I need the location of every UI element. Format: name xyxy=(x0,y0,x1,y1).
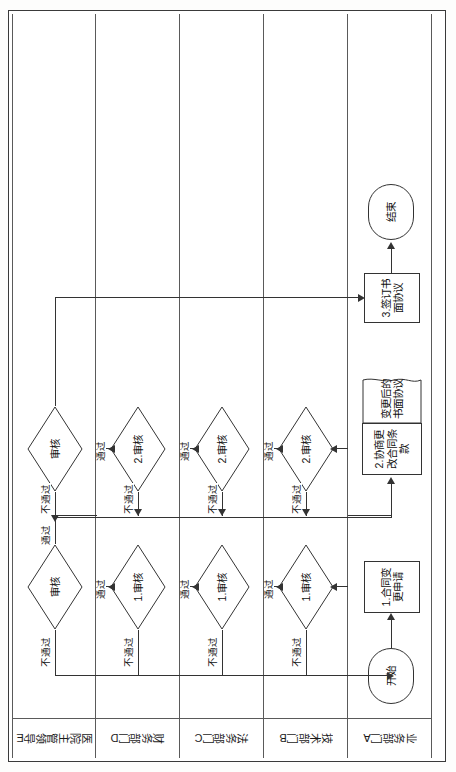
feed-bus-p2-c xyxy=(180,517,264,518)
edge-p3-to-end xyxy=(391,247,392,273)
node-process-3-sign-agreement[interactable]: 3.签订书面协议 xyxy=(364,273,420,323)
swimlane-leadership-e: 医院主管领导E 审核 审核 xyxy=(12,14,96,758)
node-document-written-agreement[interactable]: 变更后的书面协议 xyxy=(362,374,422,424)
node-label-end: 结束 xyxy=(385,200,397,224)
edge-e1-fail xyxy=(55,630,56,676)
decision-technical-review-2[interactable]: 2.审核 xyxy=(278,406,334,492)
arrow-feed-to-p2 xyxy=(387,477,395,484)
decision-label: 审核 xyxy=(49,575,61,599)
arrow-p1-to-b1 xyxy=(330,583,337,591)
edge-label-e2-fail: 不通过 xyxy=(41,483,51,515)
swimlane-technical-b: 技术部门B 1.审核 2.审核 xyxy=(264,14,348,758)
arrow-c1-pass xyxy=(192,583,199,591)
lane-body-d: 1.审核 2.审核 通过 不通过 xyxy=(96,14,179,718)
decision-technical-review-1[interactable]: 1.审核 xyxy=(278,544,334,630)
edge-label-d2-fail: 不通过 xyxy=(124,483,134,515)
edge-label-d1-fail: 不通过 xyxy=(124,636,134,668)
arrow-c2-fail xyxy=(218,509,226,516)
decision-finance-review-1[interactable]: 1.审核 xyxy=(110,544,166,630)
arrow-p3-to-end xyxy=(387,242,395,249)
arrow-p2-to-b2 xyxy=(330,445,337,453)
edge-label-e1-fail: 不通过 xyxy=(41,636,51,668)
reject-bus-round1-e xyxy=(55,675,97,676)
lane-body-c: 1.审核 2.审核 通过 不通过 通过 xyxy=(180,14,263,718)
decision-label: 2.审核 xyxy=(132,433,144,466)
node-label-doc1: 变更后的书面协议 xyxy=(380,374,405,424)
edge-e2-pass-down xyxy=(55,297,97,298)
edge-b1-fail xyxy=(306,630,307,676)
decision-label: 1.审核 xyxy=(132,571,144,604)
node-label-p1: 1.合同变更申请 xyxy=(380,562,405,612)
edge-c1-fail xyxy=(222,630,223,676)
decision-leadership-review-1[interactable]: 审核 xyxy=(27,544,83,630)
swimlane-finance-d: 财务部门D 1.审核 2.审核 xyxy=(96,14,180,758)
node-label-p3: 3.签订书面协议 xyxy=(380,274,405,322)
pass-bus-p3-b xyxy=(264,297,348,298)
edge-label-c2-pass: 通过 xyxy=(180,440,190,462)
decision-leadership-review-2[interactable]: 审核 xyxy=(27,406,83,492)
lane-body-a: 开始 1.合同变更申请 xyxy=(348,14,431,718)
decision-label: 审核 xyxy=(49,437,61,461)
node-process-2-negotiate-terms[interactable]: 2.协商更改合同条款 xyxy=(362,423,422,475)
arrow-d2-fail xyxy=(134,509,142,516)
lane-label-a: 业务部门A xyxy=(363,731,417,747)
lane-header-b: 技术部门B xyxy=(264,718,347,758)
pass-bus-p3-d xyxy=(96,297,180,298)
edge-label-d2-pass: 通过 xyxy=(96,440,106,462)
edge-label-b1-pass: 通过 xyxy=(264,578,274,600)
node-label-p2: 2.协商更改合同条款 xyxy=(373,424,410,474)
decision-label: 2.审核 xyxy=(300,433,312,466)
pass-bus-p3-c xyxy=(180,297,264,298)
lane-body-e: 审核 审核 不通过 通过 xyxy=(13,14,95,718)
lane-header-e: 医院主管领导E xyxy=(13,718,95,758)
swimlane-business-a: 业务部门A 开始 1.合同变更申请 xyxy=(348,14,432,758)
swimlane-canvas: 医院主管领导E 审核 审核 xyxy=(12,14,432,758)
lane-label-c: 法务部门C xyxy=(194,731,248,747)
decision-label: 2.审核 xyxy=(216,433,228,466)
flowchart-viewport: 医院主管领导E 审核 审核 xyxy=(12,14,432,758)
arrow-b1-pass xyxy=(276,583,283,591)
edge-label-c1-fail: 不通过 xyxy=(208,636,218,668)
lane-label-e: 医院主管领导E xyxy=(16,731,93,747)
edge-label-b1-fail: 不通过 xyxy=(292,636,302,668)
arrow-d1-pass xyxy=(108,583,115,591)
decision-label: 1.审核 xyxy=(216,571,228,604)
edge-feed-to-p2 xyxy=(391,482,392,518)
arrow-start-to-p1 xyxy=(387,613,395,620)
decision-finance-review-2[interactable]: 2.审核 xyxy=(110,406,166,492)
edge-label-b2-pass: 通过 xyxy=(264,440,274,462)
arrow-d2-pass xyxy=(108,445,115,453)
edge-e2-fail xyxy=(55,492,56,516)
node-end[interactable]: 结束 xyxy=(368,184,414,240)
scanned-page: 医院主管领导E 审核 审核 xyxy=(0,0,456,772)
lane-header-d: 财务部门D xyxy=(96,718,179,758)
edge-p2-feed-down-e xyxy=(55,517,97,518)
edge-label-d1-pass: 通过 xyxy=(96,578,106,600)
reject-bus-round2-a xyxy=(348,515,391,516)
lane-header-a: 业务部门A xyxy=(348,718,431,758)
edge-label-b2-fail: 不通过 xyxy=(292,483,302,515)
lane-label-b: 技术部门B xyxy=(279,731,333,747)
feed-bus-p2-a xyxy=(348,517,391,518)
arrow-b2-pass xyxy=(276,445,283,453)
reject-bus-round1-a xyxy=(348,675,391,676)
feed-bus-p2-b xyxy=(264,517,348,518)
reject-bus-round1-d xyxy=(96,675,180,676)
arrow-reject-to-p1-path xyxy=(387,672,394,680)
node-process-1-change-request[interactable]: 1.合同变更申请 xyxy=(364,561,420,613)
arrow-c2-pass xyxy=(192,445,199,453)
arrow-b2-fail xyxy=(302,509,310,516)
reject-bus-round1-c xyxy=(180,675,264,676)
decision-legal-review-1[interactable]: 1.审核 xyxy=(194,544,250,630)
edge-e2-pass xyxy=(55,298,56,406)
reject-bus-round1-b xyxy=(264,675,348,676)
feed-bus-p2-d xyxy=(96,517,180,518)
reject-bus-round2-e xyxy=(55,515,97,516)
decision-label: 1.审核 xyxy=(300,571,312,604)
edge-label-e1-pass: 通过 xyxy=(41,524,51,546)
decision-legal-review-2[interactable]: 2.审核 xyxy=(194,406,250,492)
edge-label-c2-fail: 不通过 xyxy=(208,483,218,515)
swimlane-legal-c: 法务部门C 1.审核 2.审核 xyxy=(180,14,264,758)
lane-header-c: 法务部门C xyxy=(180,718,263,758)
lane-label-d: 财务部门D xyxy=(110,731,164,747)
